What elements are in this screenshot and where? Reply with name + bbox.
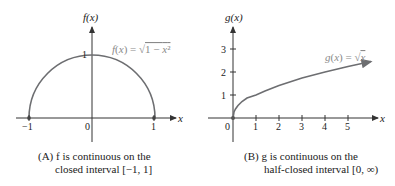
caption-a: (A) f is continuous on the closed interv…	[38, 150, 152, 176]
caption-b: (B) g is continuous on the half-closed i…	[244, 150, 378, 176]
y-label-b: g(x)	[225, 11, 243, 24]
svg-text:0: 0	[225, 121, 230, 132]
caption-b-line2: half-closed interval [0, ∞)	[244, 163, 378, 176]
svg-text:1: 1	[82, 49, 87, 60]
x-label-b: x	[379, 112, 385, 124]
caption-b-line1: (B) g is continuous on the	[244, 150, 378, 163]
svg-text:2: 2	[276, 121, 281, 132]
svg-text:4: 4	[322, 121, 327, 132]
caption-a-line2: closed interval [−1, 1]	[38, 163, 152, 176]
caption-a-line1: (A) f is continuous on the	[38, 150, 152, 163]
panel-a: f(x) x 1 −1 0 1 f(x) = √1 − x²	[16, 11, 183, 142]
svg-text:2: 2	[221, 67, 226, 78]
sqrt-curve	[233, 62, 371, 119]
x-label-a: x	[177, 112, 183, 124]
curve-label-a: f(x) = √1 − x²	[112, 43, 171, 56]
svg-text:1: 1	[151, 121, 156, 132]
svg-text:5: 5	[345, 121, 350, 132]
svg-text:3: 3	[299, 121, 304, 132]
svg-text:−1: −1	[22, 121, 33, 132]
svg-text:0: 0	[85, 121, 90, 132]
svg-text:1: 1	[221, 90, 226, 101]
panel-a-plot: f(x) x 1 −1 0 1 f(x) = √1 − x²	[0, 0, 395, 150]
y-label-a: f(x)	[83, 11, 99, 24]
svg-text:1: 1	[253, 121, 258, 132]
svg-text:3: 3	[221, 44, 226, 55]
figure: f(x) x 1 −1 0 1 f(x) = √1 − x²	[0, 0, 395, 186]
panel-b: g(x) x 1 2 3 0 1 2 3 4 5 g(x) = √x	[208, 11, 385, 142]
curve-label-b: g(x) = √x	[325, 51, 365, 64]
